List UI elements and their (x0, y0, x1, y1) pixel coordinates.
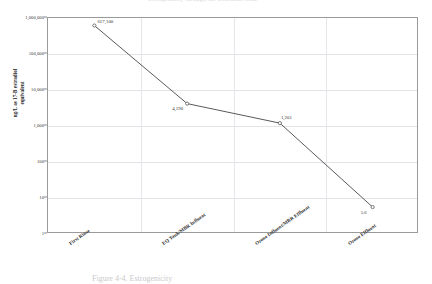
x-axis-tick-label: First Rinse (69, 228, 92, 246)
x-axis-tick-label: Ozone Effluent (347, 223, 377, 246)
figure-caption-text: Figure 4-4. Estrogenicity (92, 274, 172, 283)
figure-caption-strip: Figure 4-4. Estrogenicity (0, 272, 432, 284)
x-axis-tick-label: EQ Tank/MBR Influent (161, 212, 206, 246)
x-axis-tick-label: Ozone Influent/MBR Effluent (254, 204, 310, 246)
x-axis-labels: First RinseEQ Tank/MBR InfluentOzone Inf… (0, 0, 432, 284)
figure-container: Estrogenicity through the treatment trai… (0, 0, 432, 284)
